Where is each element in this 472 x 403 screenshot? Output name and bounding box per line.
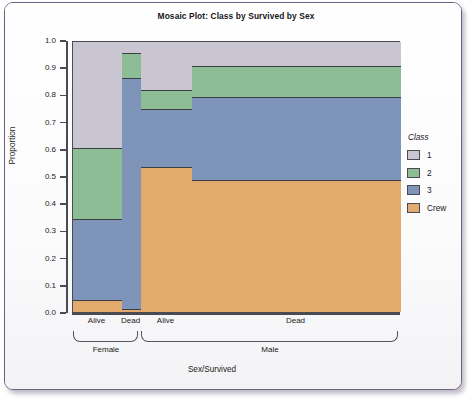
y-axis-tick: [60, 40, 66, 42]
legend-item[interactable]: 3: [407, 183, 469, 197]
mosaic-tile: [73, 148, 122, 220]
mosaic-tile: [73, 42, 122, 148]
legend-swatch: [407, 168, 420, 178]
mosaic-tile: [192, 97, 401, 180]
y-axis-tick-label: 0.2: [8, 253, 56, 262]
y-axis-tick: [60, 231, 66, 233]
mosaic-column: [122, 42, 141, 312]
mosaic-tile: [141, 109, 192, 167]
legend-item-label: 2: [427, 168, 432, 178]
legend-swatch: [407, 185, 420, 195]
legend-item[interactable]: 1: [407, 148, 469, 162]
group-label: Male: [140, 345, 400, 354]
x-axis-tick-label: Alive: [72, 316, 121, 325]
mosaic-tile: [122, 309, 141, 312]
mosaic-column: [141, 42, 192, 312]
mosaic-tile: [73, 300, 122, 312]
legend-swatch: [407, 203, 420, 213]
legend-item-label: 3: [427, 185, 432, 195]
x-axis-tick-label: Dead: [121, 316, 140, 325]
y-axis-tick: [60, 95, 66, 97]
chart-title: Mosaic Plot: Class by Survived by Sex: [0, 11, 472, 21]
mosaic-tile: [141, 42, 192, 90]
y-axis-tick: [60, 176, 66, 178]
legend-swatch: [407, 150, 420, 160]
y-axis-tick-label: 0.8: [8, 90, 56, 99]
mosaic-tile: [141, 167, 192, 312]
mosaic-tile: [192, 42, 401, 66]
x-axis-line: [72, 313, 400, 315]
mosaic-column: [192, 42, 401, 312]
y-axis-tick: [60, 203, 66, 205]
legend: Class 123Crew: [407, 133, 469, 218]
y-axis-tick: [60, 312, 66, 314]
legend-items: 123Crew: [407, 148, 469, 215]
x-axis-tick-label: Alive: [140, 316, 191, 325]
mosaic-tile: [122, 42, 141, 53]
group-brace: [73, 331, 138, 342]
y-axis-tick-label: 0.0: [8, 308, 56, 317]
legend-title: Class: [407, 133, 469, 142]
mosaic-column: [73, 42, 122, 312]
y-axis-tick-label: 1.0: [8, 36, 56, 45]
mosaic-tile: [192, 180, 401, 312]
y-axis-tick-label: 0.4: [8, 199, 56, 208]
mosaic-tile: [73, 219, 122, 299]
y-axis-tick: [60, 122, 66, 124]
plot-area: [72, 41, 400, 313]
mosaic-plot: Mosaic Plot: Class by Survived by Sex 1.…: [0, 0, 472, 403]
legend-item-label: 1: [427, 150, 432, 160]
mosaic-tile: [192, 66, 401, 97]
y-axis-tick: [60, 258, 66, 260]
y-axis-tick-label: 0.9: [8, 63, 56, 72]
mosaic-tile: [122, 78, 141, 309]
y-axis-tick: [60, 67, 66, 69]
x-axis-tick-label: Dead: [191, 316, 400, 325]
x-axis-title: Sex/Survived: [0, 365, 424, 374]
y-axis-title: Proportion: [8, 111, 17, 181]
y-axis-line: [66, 41, 68, 313]
legend-item-label: Crew: [427, 203, 446, 213]
y-axis-tick: [60, 149, 66, 151]
mosaic-tile: [141, 90, 192, 109]
mosaic-tile: [122, 53, 141, 78]
y-axis-tick: [60, 285, 66, 287]
group-brace: [141, 331, 398, 342]
legend-item[interactable]: Crew: [407, 201, 469, 215]
group-label: Female: [72, 345, 140, 354]
y-axis-tick-label: 0.3: [8, 226, 56, 235]
y-axis-tick-label: 0.1: [8, 280, 56, 289]
legend-item[interactable]: 2: [407, 166, 469, 180]
y-axis-labels: 1.00.90.80.70.60.50.40.30.20.10.0: [8, 0, 56, 403]
